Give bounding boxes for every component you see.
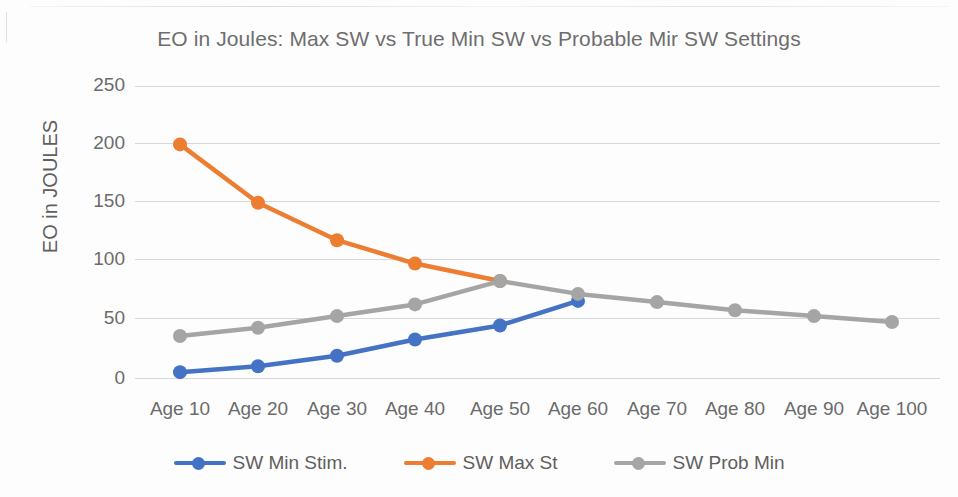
data-point-1-3[interactable]: [408, 257, 422, 271]
series-line-2: [180, 281, 892, 336]
legend-marker-blue-icon: [174, 455, 226, 471]
legend-label-1: SW Max St: [463, 452, 558, 474]
data-point-1-0[interactable]: [173, 137, 187, 151]
data-point-2-5[interactable]: [571, 287, 585, 301]
legend-label-2: SW Prob Min: [673, 452, 785, 474]
data-point-2-8[interactable]: [807, 309, 821, 323]
legend-item-sw-prob-min[interactable]: SW Prob Min: [614, 452, 785, 474]
legend-item-sw-max-st[interactable]: SW Max St: [404, 452, 558, 474]
legend-dot-gray: [632, 457, 645, 470]
data-point-0-2[interactable]: [330, 349, 344, 363]
data-point-0-0[interactable]: [173, 365, 187, 379]
data-point-2-4[interactable]: [493, 274, 507, 288]
data-point-2-6[interactable]: [650, 295, 664, 309]
data-point-2-7[interactable]: [728, 303, 742, 317]
data-point-1-1[interactable]: [251, 196, 265, 210]
data-point-2-0[interactable]: [173, 329, 187, 343]
data-point-2-9[interactable]: [885, 315, 899, 329]
legend-marker-gray-icon: [614, 455, 666, 471]
data-point-2-2[interactable]: [330, 309, 344, 323]
legend-label-0: SW Min Stim.: [233, 452, 348, 474]
legend-dot-orange: [422, 457, 435, 470]
data-point-0-1[interactable]: [251, 359, 265, 373]
series-line-1: [180, 144, 500, 281]
chart-container: EO in Joules: Max SW vs True Min SW vs P…: [0, 0, 958, 497]
data-point-1-2[interactable]: [330, 233, 344, 247]
plot-area: [0, 0, 958, 497]
data-point-0-4[interactable]: [493, 318, 507, 332]
legend-marker-orange-icon: [404, 455, 456, 471]
chart-legend: SW Min Stim. SW Max St SW Prob Min: [0, 452, 958, 474]
legend-item-sw-min-stim[interactable]: SW Min Stim.: [174, 452, 348, 474]
data-point-0-3[interactable]: [408, 332, 422, 346]
data-point-2-3[interactable]: [408, 297, 422, 311]
legend-dot-blue: [192, 457, 205, 470]
data-point-2-1[interactable]: [251, 321, 265, 335]
